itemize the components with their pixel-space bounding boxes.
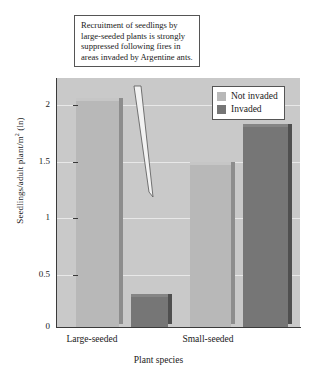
tick-mark-0-5 <box>73 275 78 276</box>
bar-front-face <box>131 297 168 327</box>
bar-front-face <box>243 127 288 327</box>
bar-side-face <box>231 162 235 324</box>
x-category-label-small-seeded: Small-seeded <box>158 334 258 344</box>
bar-small-seeded-not-invaded <box>190 165 231 327</box>
y-tick-label-1-5: 1.5 <box>28 157 50 166</box>
tick-mark-0 <box>73 327 78 328</box>
y-tick-label-0: 0 <box>28 322 50 331</box>
legend-swatch-icon-not-invaded <box>217 92 226 101</box>
bar-small-seeded-invaded <box>243 127 288 327</box>
bar-side-face <box>168 294 172 324</box>
y-axis-line <box>56 78 57 328</box>
y-axis-title-exponent: 2 <box>14 133 20 136</box>
legend: Not invaded Invaded <box>212 86 285 120</box>
bar-large-seeded-invaded <box>131 297 168 327</box>
annotation-pointer-icon <box>125 84 165 199</box>
x-category-label-large-seeded: Large-seeded <box>42 334 142 344</box>
annotation-callout: Recruitment of seedlings by large-seeded… <box>74 15 200 67</box>
y-axis-ticks: 0 0.5 1 1.5 2 <box>22 0 50 377</box>
y-tick-label-0-5: 0.5 <box>28 270 50 279</box>
x-axis-line <box>56 327 301 328</box>
bar-side-face <box>119 98 123 324</box>
legend-label-not-invaded: Not invaded <box>231 91 278 102</box>
legend-label-invaded: Invaded <box>231 104 262 115</box>
bar-front-face <box>76 101 119 327</box>
y-axis-title-tail: (ln) <box>15 117 25 133</box>
bar-side-face <box>288 124 292 324</box>
x-axis-title: Plant species <box>0 355 317 365</box>
legend-item-not-invaded: Not invaded <box>217 90 278 103</box>
y-axis-title: Seedlings/adult plant/m2 (ln) <box>14 86 25 256</box>
legend-swatch-icon-invaded <box>217 105 226 114</box>
tick-mark-2 <box>73 105 78 106</box>
bar-large-seeded-not-invaded <box>76 101 119 327</box>
annotation-text: Recruitment of seedlings by large-seeded… <box>81 20 194 62</box>
tick-mark-1-5 <box>73 162 78 163</box>
legend-item-invaded: Invaded <box>217 103 278 116</box>
y-tick-label-1: 1 <box>28 213 50 222</box>
y-axis-title-main: Seedlings/adult plant/m <box>15 136 25 224</box>
y-tick-label-2: 2 <box>28 100 50 109</box>
bar-chart-figure: 0 0.5 1 1.5 2 Seedlings/adult plant/m2 (… <box>0 0 317 377</box>
bar-front-face <box>190 165 231 327</box>
tick-mark-1 <box>73 218 78 219</box>
